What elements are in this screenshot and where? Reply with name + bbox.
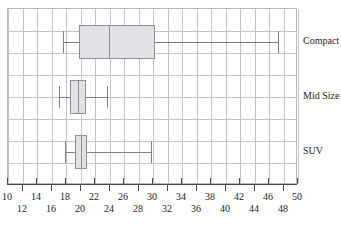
x-tick-label-38: 38 xyxy=(197,191,223,202)
vertical-gridline xyxy=(211,9,212,183)
x-tick-label-50: 50 xyxy=(284,191,310,202)
horizontal-gridline xyxy=(8,141,296,142)
x-tick-label-14: 14 xyxy=(23,191,49,202)
lower-whisker-line xyxy=(65,152,76,153)
x-tick-label-36: 36 xyxy=(183,203,209,214)
x-tick-label-20: 20 xyxy=(67,203,93,214)
vertical-gridline xyxy=(23,9,24,183)
vertical-gridline xyxy=(240,9,241,183)
vertical-gridline xyxy=(226,9,227,183)
x-tick-38 xyxy=(210,178,211,184)
category-label-compact: Compact xyxy=(303,35,339,46)
x-tick-50 xyxy=(297,178,298,184)
vertical-gridline xyxy=(66,9,67,183)
x-tick-18 xyxy=(65,178,66,184)
upper-whisker-cap xyxy=(278,31,279,53)
vertical-gridline xyxy=(168,9,169,183)
upper-whisker-cap xyxy=(107,86,108,108)
horizontal-gridline xyxy=(8,163,296,164)
vertical-gridline xyxy=(197,9,198,183)
vertical-gridline xyxy=(269,9,270,183)
x-tick-label-22: 22 xyxy=(81,191,107,202)
box-plot-chart: 1012141618202224262830323436384042444648… xyxy=(0,0,341,225)
vertical-gridline xyxy=(37,9,38,183)
upper-whisker-line xyxy=(86,97,106,98)
vertical-gridline xyxy=(284,9,285,183)
lower-whisker-line xyxy=(59,97,70,98)
x-tick-label-30: 30 xyxy=(139,191,165,202)
x-tick-label-18: 18 xyxy=(52,191,78,202)
x-tick-label-28: 28 xyxy=(125,203,151,214)
lower-whisker-cap xyxy=(65,141,66,163)
x-tick-label-40: 40 xyxy=(212,203,238,214)
x-tick-42 xyxy=(239,178,240,184)
x-tick-label-48: 48 xyxy=(270,203,296,214)
median-line xyxy=(78,80,79,114)
lower-whisker-cap xyxy=(63,31,64,53)
horizontal-gridline xyxy=(8,75,296,76)
box-iqr xyxy=(79,25,155,59)
upper-whisker-line xyxy=(87,152,151,153)
vertical-gridline xyxy=(255,9,256,183)
x-tick-label-42: 42 xyxy=(226,191,252,202)
x-tick-label-24: 24 xyxy=(96,203,122,214)
median-line xyxy=(109,25,110,59)
upper-whisker-cap xyxy=(151,141,152,163)
horizontal-gridline xyxy=(8,119,296,120)
x-tick-34 xyxy=(181,178,182,184)
lower-whisker-line xyxy=(63,42,79,43)
median-line xyxy=(81,135,82,169)
x-tick-label-44: 44 xyxy=(241,203,267,214)
lower-whisker-cap xyxy=(59,86,60,108)
x-tick-26 xyxy=(123,178,124,184)
upper-whisker-line xyxy=(155,42,278,43)
x-tick-14 xyxy=(36,178,37,184)
x-tick-10 xyxy=(7,178,8,184)
x-tick-label-34: 34 xyxy=(168,191,194,202)
vertical-gridline xyxy=(298,9,299,183)
x-tick-label-32: 32 xyxy=(154,203,180,214)
plot-area xyxy=(7,8,297,184)
x-tick-22 xyxy=(94,178,95,184)
x-tick-46 xyxy=(268,178,269,184)
vertical-gridline xyxy=(8,9,9,183)
x-tick-label-10: 10 xyxy=(0,191,20,202)
category-label-mid-size: Mid Size xyxy=(303,90,339,101)
x-tick-label-26: 26 xyxy=(110,191,136,202)
vertical-gridline xyxy=(52,9,53,183)
x-tick-label-12: 12 xyxy=(9,203,35,214)
category-label-suv: SUV xyxy=(303,145,323,156)
vertical-gridline xyxy=(182,9,183,183)
x-tick-30 xyxy=(152,178,153,184)
horizontal-gridline xyxy=(8,97,296,98)
x-tick-label-46: 46 xyxy=(255,191,281,202)
x-tick-label-16: 16 xyxy=(38,203,64,214)
